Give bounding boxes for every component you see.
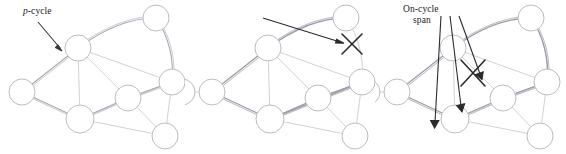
annotation-arrow-a <box>38 22 62 51</box>
panel-b-graph <box>185 0 380 154</box>
panel-c-graph <box>375 0 566 154</box>
node <box>527 123 553 149</box>
node <box>375 79 380 105</box>
cycle-path-b <box>212 16 362 121</box>
node <box>185 79 195 105</box>
panel-p-cycle: p-cycle <box>0 0 190 154</box>
node <box>143 5 169 31</box>
node <box>199 79 225 105</box>
node <box>349 69 375 95</box>
node <box>342 123 368 149</box>
node <box>384 79 410 105</box>
node <box>534 69 560 95</box>
node <box>65 35 91 61</box>
label-p-cycle: p-cycle <box>23 6 52 17</box>
figure-pcycle-diagrams: p-cycle <box>0 0 566 154</box>
node <box>490 85 516 111</box>
label-p-cycle-suffix: -cycle <box>28 6 52 16</box>
node <box>9 79 35 105</box>
node <box>255 35 281 61</box>
panel-on-cycle-span: On-cycle span <box>185 0 380 154</box>
node <box>518 5 544 31</box>
node <box>159 69 185 95</box>
node <box>115 85 141 111</box>
node <box>152 123 178 149</box>
node <box>66 105 94 133</box>
panel-straddling-spans: Straddling spans <box>375 0 566 154</box>
nodes-b <box>185 5 375 149</box>
failed-span-x-icon-b <box>342 34 362 54</box>
node <box>256 105 284 133</box>
node <box>305 85 331 111</box>
node <box>333 5 359 31</box>
node <box>441 105 469 133</box>
panel-a-graph <box>0 0 190 154</box>
